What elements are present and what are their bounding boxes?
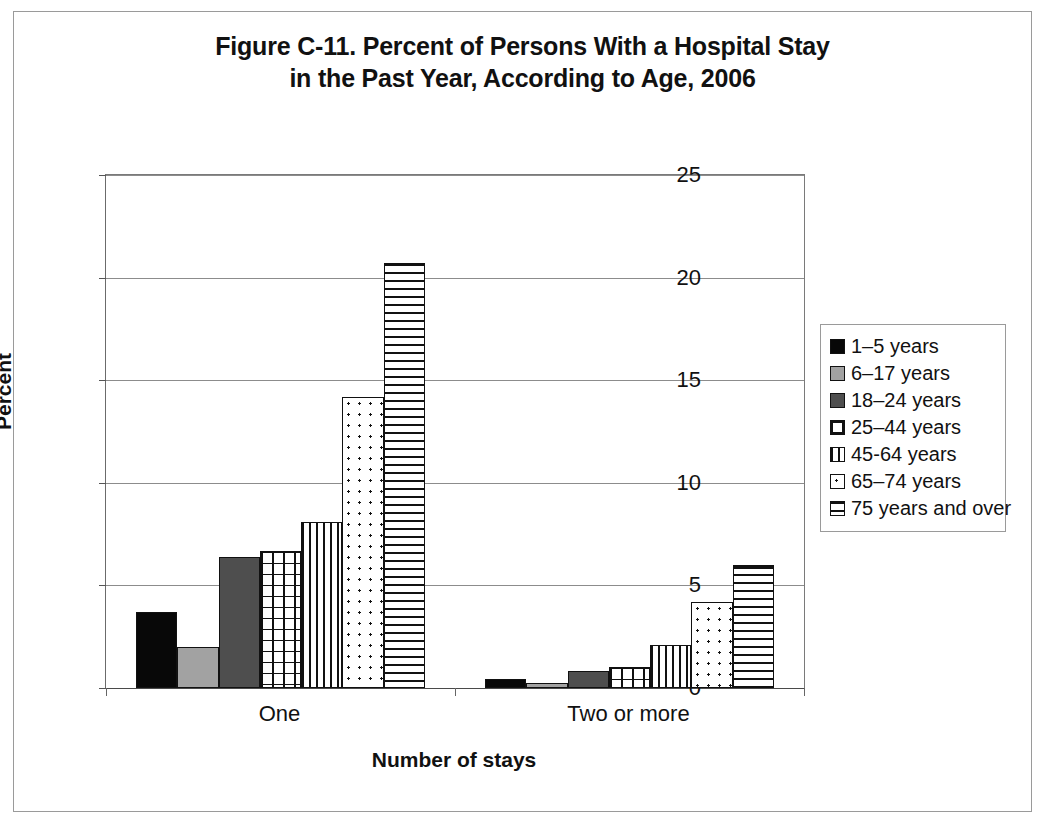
x-tick-mark xyxy=(106,688,107,696)
legend-item-label: 6–17 years xyxy=(851,362,950,385)
legend-swatch-icon xyxy=(830,339,845,354)
legend-item-label: 25–44 years xyxy=(851,416,961,439)
bar xyxy=(219,557,260,688)
page-title: Figure C-11. Percent of Persons With a H… xyxy=(14,30,1031,94)
bar xyxy=(691,602,732,688)
bar xyxy=(301,522,342,688)
x-tick-mark xyxy=(455,688,456,696)
y-tick-mark xyxy=(99,688,106,689)
bars-layer xyxy=(106,175,804,688)
bar xyxy=(342,397,383,688)
legend: 1–5 years6–17 years18–24 years25–44 year… xyxy=(820,324,1006,532)
y-tick-mark xyxy=(99,380,106,381)
legend-swatch-icon xyxy=(830,501,845,516)
bar xyxy=(526,683,567,688)
bar xyxy=(650,645,691,688)
legend-item[interactable]: 6–17 years xyxy=(830,360,999,387)
bar xyxy=(609,667,650,688)
legend-item-label: 18–24 years xyxy=(851,389,961,412)
legend-item[interactable]: 75 years and over xyxy=(830,495,999,522)
legend-item-label: 1–5 years xyxy=(851,335,939,358)
x-axis-label: Number of stays xyxy=(105,748,803,772)
legend-item[interactable]: 18–24 years xyxy=(830,387,999,414)
legend-item[interactable]: 25–44 years xyxy=(830,414,999,441)
y-tick-mark xyxy=(99,585,106,586)
y-tick-mark xyxy=(99,278,106,279)
legend-item-label: 75 years and over xyxy=(851,497,1011,520)
legend-swatch-icon xyxy=(830,474,845,489)
plot-area: 0510152025 xyxy=(105,174,805,689)
x-category-label: One xyxy=(259,701,301,727)
bar xyxy=(485,679,526,688)
y-axis-label: Percent xyxy=(0,353,16,430)
legend-item[interactable]: 1–5 years xyxy=(830,333,999,360)
x-category-label: Two or more xyxy=(567,701,689,727)
bar xyxy=(136,612,177,688)
bar xyxy=(177,647,218,688)
chart-title-line-1: Figure C-11. Percent of Persons With a H… xyxy=(14,30,1031,62)
x-tick-mark xyxy=(804,688,805,696)
legend-swatch-icon xyxy=(830,420,845,435)
y-tick-mark xyxy=(99,175,106,176)
bar xyxy=(384,263,425,688)
bar xyxy=(568,671,609,688)
legend-item[interactable]: 65–74 years xyxy=(830,468,999,495)
legend-item[interactable]: 45-64 years xyxy=(830,441,999,468)
bar xyxy=(260,551,301,688)
legend-swatch-icon xyxy=(830,393,845,408)
legend-swatch-icon xyxy=(830,447,845,462)
legend-item-label: 45-64 years xyxy=(851,443,957,466)
bar xyxy=(733,565,774,688)
legend-swatch-icon xyxy=(830,366,845,381)
chart-title-line-2: in the Past Year, According to Age, 2006 xyxy=(14,62,1031,94)
figure-frame: Figure C-11. Percent of Persons With a H… xyxy=(13,11,1032,812)
y-tick-mark xyxy=(99,483,106,484)
legend-item-label: 65–74 years xyxy=(851,470,961,493)
